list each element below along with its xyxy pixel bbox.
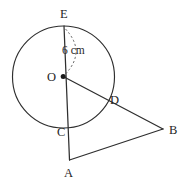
point-label-c: C xyxy=(57,125,65,139)
point-label-d: D xyxy=(110,93,119,107)
segment-ab xyxy=(70,129,164,160)
center-point-dot xyxy=(61,74,66,79)
point-label-b: B xyxy=(169,123,177,137)
point-label-e: E xyxy=(60,7,68,21)
point-label-o: O xyxy=(47,70,56,84)
geometry-canvas: E O C A B D 6 cm xyxy=(0,0,185,183)
geometry-figure: E O C A B D 6 cm xyxy=(0,0,185,183)
point-label-a: A xyxy=(64,166,73,180)
radius-measure-label: 6 cm xyxy=(62,44,85,56)
